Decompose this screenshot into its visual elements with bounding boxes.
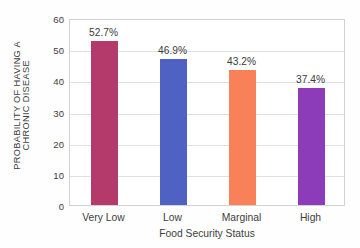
bar-value-label: 43.2% — [227, 56, 256, 67]
bar[interactable] — [229, 70, 256, 205]
bar[interactable] — [91, 41, 118, 205]
x-axis-tick-label: Marginal — [222, 212, 262, 223]
y-axis-tick-mark — [60, 206, 64, 207]
y-axis-tick-mark — [60, 174, 64, 175]
y-axis-tick-labels: 0102030405060 — [40, 0, 64, 248]
bar-value-label: 46.9% — [158, 45, 187, 56]
bar-chart-figure: PROBABILITY OF HAVING A CHRONIC DISEASE … — [0, 0, 360, 248]
y-axis-tick-mark — [60, 81, 64, 82]
bar[interactable] — [160, 59, 187, 205]
y-axis-tick-mark — [60, 50, 64, 51]
x-axis-title: Food Security Status — [69, 228, 345, 239]
y-axis-tick-mark — [60, 19, 64, 20]
x-axis-tick-label: High — [300, 212, 321, 223]
bars-layer — [70, 20, 344, 205]
y-axis-tick-mark — [60, 112, 64, 113]
x-axis-tick-label: Very Low — [82, 212, 124, 223]
plot-area — [69, 19, 345, 206]
bar-value-label: 52.7% — [89, 27, 118, 38]
y-axis-title-line-2: CHRONIC DISEASE — [22, 60, 31, 151]
x-axis-tick-label: Low — [163, 212, 182, 223]
y-axis-title: PROBABILITY OF HAVING A CHRONIC DISEASE — [0, 0, 44, 210]
y-axis-tick-mark — [60, 143, 64, 144]
bar[interactable] — [298, 88, 325, 205]
bar-value-label: 37.4% — [296, 74, 325, 85]
